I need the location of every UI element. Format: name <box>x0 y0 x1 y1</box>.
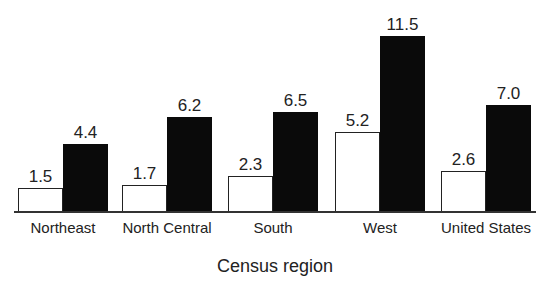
category-label: United States <box>421 219 550 236</box>
value-label: 2.3 <box>221 156 281 174</box>
bar-black <box>486 105 531 211</box>
bar-black <box>167 117 212 211</box>
value-label: 7.0 <box>479 85 539 103</box>
value-label: 4.4 <box>56 124 116 142</box>
value-label: 1.5 <box>11 168 71 186</box>
value-label: 6.2 <box>160 97 220 115</box>
x-axis-baseline <box>14 211 536 213</box>
bar-black <box>273 112 318 211</box>
value-label: 1.7 <box>115 165 175 183</box>
x-axis-label: Census region <box>0 256 550 277</box>
bar-black <box>380 36 425 211</box>
value-label: 2.6 <box>434 151 494 169</box>
bar-white <box>18 188 63 211</box>
bar-black <box>63 144 108 211</box>
value-label: 11.5 <box>373 16 433 34</box>
value-label: 6.5 <box>266 92 326 110</box>
bar-white <box>122 185 167 211</box>
value-label: 5.2 <box>328 112 388 130</box>
bar-white <box>335 132 380 211</box>
bar-white <box>228 176 273 211</box>
bar-white <box>441 171 486 211</box>
